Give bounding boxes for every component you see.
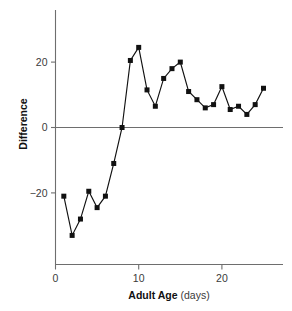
- data-point-marker: [236, 104, 241, 109]
- data-point-marker: [186, 89, 191, 94]
- data-point-marker: [145, 87, 150, 92]
- y-axis-ticks: [51, 62, 56, 193]
- data-point-marker: [178, 60, 183, 65]
- data-point-marker: [194, 97, 199, 102]
- data-point-marker: [103, 194, 108, 199]
- data-point-marker: [219, 84, 224, 89]
- data-point-marker: [95, 205, 100, 210]
- x-axis-tick-label: 20: [216, 272, 228, 284]
- data-point-marker: [61, 194, 66, 199]
- x-axis-tick-label: 10: [133, 272, 145, 284]
- data-point-marker: [244, 112, 249, 117]
- series-line-difference: [64, 47, 264, 235]
- line-chart-plot: −20020 01020: [0, 0, 292, 311]
- x-axis-tick-label: 0: [53, 272, 59, 284]
- data-point-marker: [86, 189, 91, 194]
- data-point-marker: [228, 107, 233, 112]
- chart-figure: −20020 01020 Difference Adult Age (days): [0, 0, 292, 311]
- axes-group: [56, 10, 284, 265]
- y-axis-tick-labels: −20020: [30, 56, 48, 199]
- y-axis-tick-label: −20: [30, 187, 48, 199]
- data-point-marker: [169, 66, 174, 71]
- data-point-marker: [211, 102, 216, 107]
- y-axis-tick-label: 20: [36, 56, 48, 68]
- data-point-marker: [261, 86, 266, 91]
- data-point-marker: [78, 217, 83, 222]
- data-point-marker: [120, 125, 125, 130]
- data-point-marker: [111, 161, 116, 166]
- data-point-marker: [70, 233, 75, 238]
- data-point-marker: [136, 45, 141, 50]
- series-markers-difference: [61, 45, 266, 238]
- data-point-marker: [128, 58, 133, 63]
- data-point-marker: [203, 105, 208, 110]
- x-axis-tick-labels: 01020: [53, 272, 228, 284]
- x-axis-ticks: [56, 265, 222, 270]
- data-point-marker: [253, 102, 258, 107]
- data-point-marker: [161, 76, 166, 81]
- y-axis-tick-label: 0: [42, 121, 48, 133]
- data-point-marker: [153, 104, 158, 109]
